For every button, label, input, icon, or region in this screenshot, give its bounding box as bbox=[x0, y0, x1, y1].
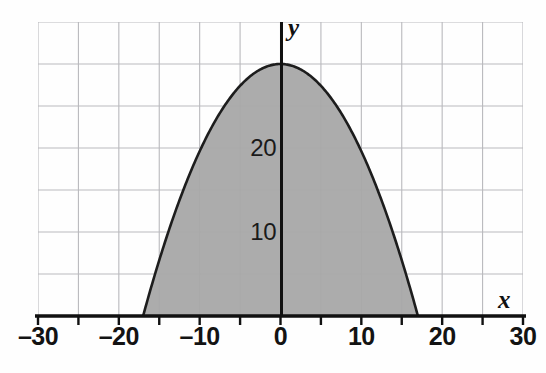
x-tick-label: –10 bbox=[180, 322, 220, 351]
x-tick-label: –20 bbox=[99, 322, 139, 351]
x-tick-label: 10 bbox=[348, 322, 375, 351]
x-tick-label: 0 bbox=[274, 322, 287, 351]
chart-figure: –30–20–100102030 2010 x y bbox=[0, 0, 546, 373]
y-axis-label: y bbox=[288, 14, 299, 42]
x-tick-label: 20 bbox=[429, 322, 456, 351]
y-tick-label: 20 bbox=[250, 134, 276, 162]
y-tick-label: 10 bbox=[250, 218, 276, 246]
x-tick-label: –30 bbox=[18, 322, 58, 351]
parabola-plot bbox=[0, 0, 546, 373]
x-axis-label: x bbox=[498, 286, 511, 314]
x-tick-label: 30 bbox=[510, 322, 537, 351]
